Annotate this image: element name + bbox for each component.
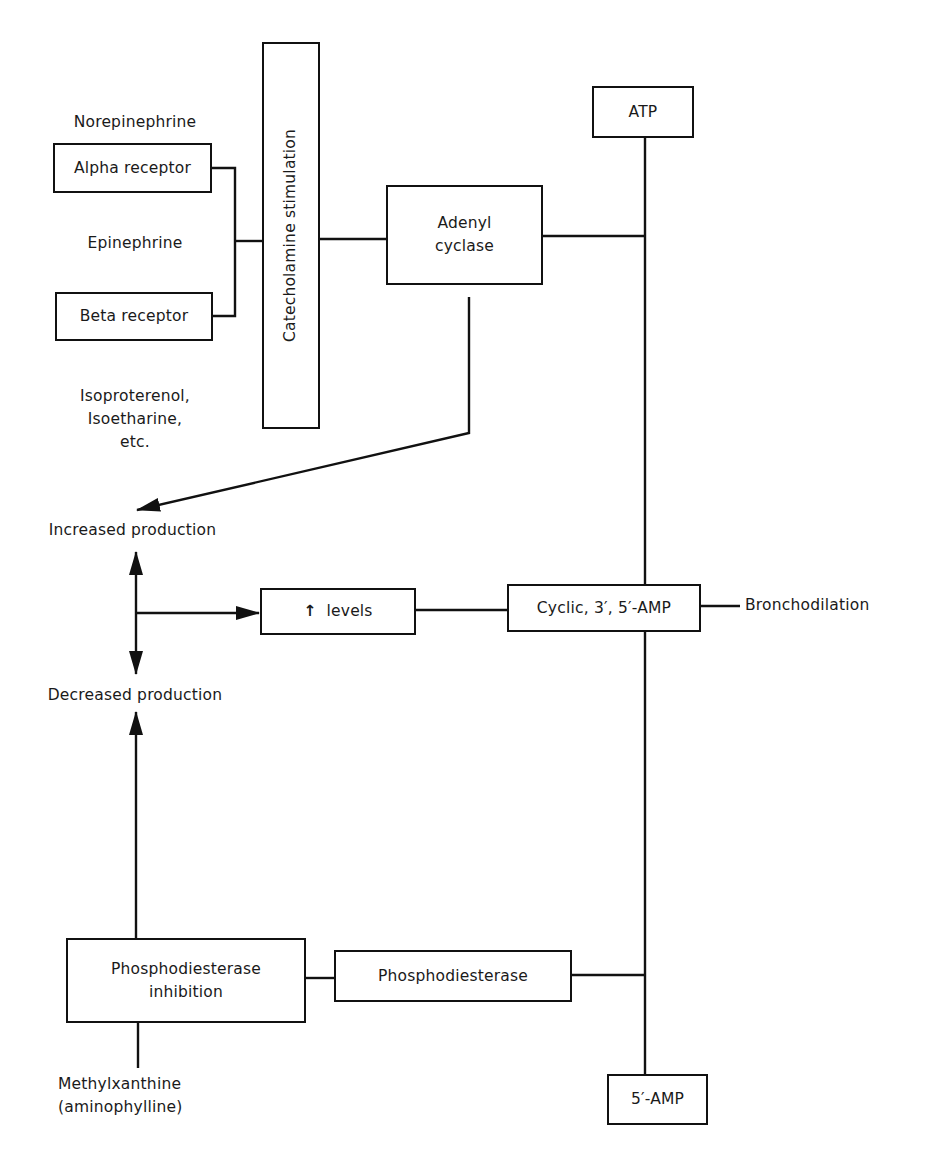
beta-receptor-label: Beta receptor [80,305,189,328]
cyclic-amp-box: Cyclic, 3′, 5′-AMP [507,584,701,632]
isoproterenol-label: Isoproterenol, Isoetharine, etc. [55,385,215,454]
decreased-production-label: Decreased production [30,684,240,707]
adenyl-cyclase-line1: Adenyl [437,212,491,235]
catecholamine-stimulation-label: Catecholamine stimulation [280,129,303,342]
phosphodiesterase-label: Phosphodiesterase [378,965,528,988]
etc-line3: etc. [55,431,215,454]
norepinephrine-label: Norepinephrine [60,111,210,134]
alpha-receptor-box: Alpha receptor [53,143,212,193]
pathway-diagram: Norepinephrine Alpha receptor Epinephrin… [0,0,925,1149]
methylxanthine-line1: Methylxanthine [58,1073,218,1096]
pde-inhibition-line1: Phosphodiesterase [111,958,261,981]
levels-label: levels [327,600,373,623]
adenyl-cyclase-line2: cyclase [435,235,494,258]
cyclic-amp-label: Cyclic, 3′, 5′-AMP [537,597,671,620]
phosphodiesterase-box: Phosphodiesterase [334,950,572,1002]
alpha-receptor-label: Alpha receptor [74,157,191,180]
alpha-bracket-line [211,168,235,316]
atp-label: ATP [629,101,658,124]
levels-box: ↑ levels [260,588,416,635]
epinephrine-label: Epinephrine [60,232,210,255]
increased-production-label: Increased production [30,519,235,542]
five-amp-label: 5′-AMP [631,1088,684,1111]
beta-receptor-box: Beta receptor [55,292,213,341]
phosphodiesterase-inhibition-box: Phosphodiesterase inhibition [66,938,306,1023]
atp-box: ATP [592,86,694,138]
methylxanthine-line2: (aminophylline) [58,1096,218,1119]
pde-inhibition-line2: inhibition [149,981,223,1004]
up-arrow-icon: ↑ [303,600,316,623]
methylxanthine-label: Methylxanthine (aminophylline) [58,1073,218,1119]
isoproterenol-line1: Isoproterenol, [55,385,215,408]
adenyl-cyclase-box: Adenyl cyclase [386,185,543,285]
five-amp-box: 5′-AMP [607,1074,708,1125]
bronchodilation-label: Bronchodilation [745,594,869,617]
isoetharine-line2: Isoetharine, [55,408,215,431]
catecholamine-stimulation-box: Catecholamine stimulation [262,42,320,429]
